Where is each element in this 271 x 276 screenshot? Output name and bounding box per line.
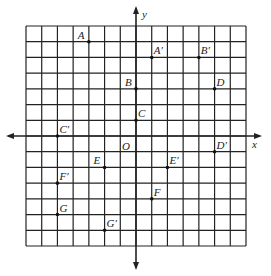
point-A (87, 40, 91, 44)
point-label: E′ (168, 154, 179, 166)
point-label: B′ (201, 44, 211, 56)
point-label: D′ (216, 139, 228, 151)
point-label: F (153, 186, 161, 198)
x-axis-arrow-left-icon (6, 133, 14, 139)
point-label: D (216, 76, 225, 88)
point-label: A (77, 29, 85, 41)
x-axis-label: x (251, 138, 257, 150)
point-label: B (125, 76, 132, 88)
point-label: E (93, 154, 101, 166)
point-label: F′ (58, 170, 69, 182)
y-axis-arrow-up-icon (133, 6, 139, 14)
coordinate-plane: xyO AA′BB′CC′DD′EE′FF′GG′ (0, 0, 271, 276)
point-B (134, 87, 138, 91)
points: AA′BB′CC′DD′EE′FF′GG′ (56, 29, 228, 232)
origin-label: O (122, 140, 130, 152)
y-axis-arrow-down-icon (133, 262, 139, 270)
point-label: G′ (107, 217, 118, 229)
point-label: G (59, 202, 67, 214)
point-label: C′ (59, 123, 69, 135)
y-axis-label: y (141, 8, 147, 20)
point-label: C (138, 107, 146, 119)
point-label: A′ (153, 44, 164, 56)
point-E (103, 166, 107, 170)
